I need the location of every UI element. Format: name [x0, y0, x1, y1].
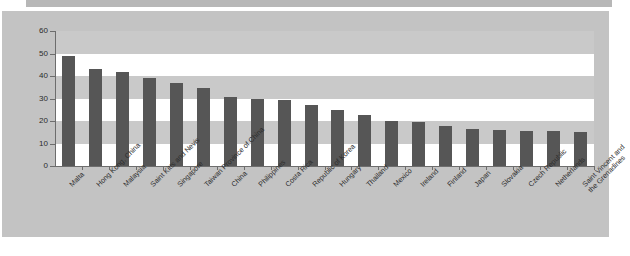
x-axis-tick — [378, 167, 379, 170]
bar[interactable] — [412, 122, 425, 166]
x-axis-tick — [567, 167, 568, 170]
y-axis-tick — [50, 54, 55, 55]
y-axis-tick — [50, 166, 55, 167]
grid-band — [55, 76, 594, 99]
x-axis-tick — [109, 167, 110, 170]
bar[interactable] — [278, 100, 291, 166]
x-axis-tick — [540, 167, 541, 170]
bar[interactable] — [493, 130, 506, 166]
bar[interactable] — [439, 126, 452, 167]
y-axis-tick — [50, 99, 55, 100]
x-axis-tick — [594, 167, 595, 170]
page-top-strip — [0, 0, 612, 7]
x-axis-tick — [136, 167, 137, 170]
y-axis-tick-label: 20 — [4, 117, 48, 125]
bar[interactable] — [143, 78, 156, 166]
x-axis-category-label: Ireland — [419, 167, 440, 188]
y-axis-tick — [50, 121, 55, 122]
x-axis-tick — [513, 167, 514, 170]
x-axis-category-label: Finland — [446, 166, 468, 188]
y-axis-tick-label: 0 — [4, 162, 48, 170]
bar[interactable] — [520, 131, 533, 166]
x-axis-tick — [82, 167, 83, 170]
x-axis-category-label: China — [230, 170, 249, 189]
y-axis-tick-label: 10 — [4, 140, 48, 148]
chart-panel: 0102030405060 MaltaHong Kong, ChinaMalay… — [2, 11, 609, 237]
x-axis-tick — [298, 167, 299, 170]
y-axis-tick-label: 40 — [4, 72, 48, 80]
bar[interactable] — [305, 105, 318, 166]
x-axis-tick — [244, 167, 245, 170]
x-axis-tick — [163, 167, 164, 170]
y-axis-labels: 0102030405060 — [2, 11, 48, 211]
y-axis-tick — [50, 144, 55, 145]
x-axis-tick — [351, 167, 352, 170]
y-axis-tick-label: 50 — [4, 50, 48, 58]
grid-band — [55, 31, 594, 54]
y-axis-tick-label: 60 — [4, 27, 48, 35]
bar[interactable] — [466, 129, 479, 166]
y-axis-tick — [50, 76, 55, 77]
x-axis-tick — [459, 167, 460, 170]
y-axis-tick-label: 30 — [4, 95, 48, 103]
bar[interactable] — [62, 56, 75, 166]
x-axis-tick — [325, 167, 326, 170]
bar[interactable] — [358, 115, 371, 166]
page-top-strip-gap — [0, 0, 26, 7]
x-axis-category-label: Mexico — [392, 167, 414, 189]
y-axis-line — [55, 31, 56, 167]
x-axis-tick — [432, 167, 433, 170]
bar[interactable] — [197, 88, 210, 166]
bar[interactable] — [385, 121, 398, 166]
x-axis-category-label: Japan — [473, 169, 493, 189]
x-axis-tick — [271, 167, 272, 170]
y-axis-tick — [50, 31, 55, 32]
bar[interactable] — [89, 69, 102, 166]
x-axis-tick — [217, 167, 218, 170]
x-axis-tick — [405, 167, 406, 170]
x-axis-tick — [190, 167, 191, 170]
x-axis-tick — [486, 167, 487, 170]
x-axis-category-label: Malta — [68, 171, 86, 189]
